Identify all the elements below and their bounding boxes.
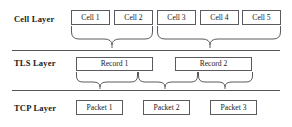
cell-box-5[interactable]: Cell 5: [242, 10, 281, 25]
cell-box-2[interactable]: Cell 2: [114, 10, 153, 25]
layer-label-cell: Cell Layer: [14, 14, 54, 24]
brace-record-1-left-to-packet-1: [76, 72, 138, 89]
brace-cells-3-5-to-record-2: [157, 26, 281, 48]
cell-box-1[interactable]: Cell 1: [71, 10, 110, 25]
tls-record-box-1[interactable]: Record 1: [76, 57, 153, 71]
layer-label-tcp: TCP Layer: [14, 103, 56, 113]
layered-protocol-diagram: Cell Layer TLS Layer TCP Layer Cell 1 Ce…: [0, 0, 292, 127]
tcp-packet-box-1[interactable]: Packet 1: [76, 100, 123, 115]
brace-record-1-right-to-packet-2: [138, 72, 198, 89]
tcp-packet-box-2[interactable]: Packet 2: [143, 100, 190, 115]
divider-cell-tls: [12, 50, 280, 51]
tls-record-box-2[interactable]: Record 2: [175, 57, 252, 71]
layer-label-tls: TLS Layer: [14, 58, 56, 68]
cell-box-4[interactable]: Cell 4: [200, 10, 239, 25]
brace-record-2-right-to-packet-3: [198, 72, 253, 89]
tcp-packet-box-3[interactable]: Packet 3: [210, 100, 257, 115]
divider-tls-tcp: [12, 90, 280, 91]
cell-box-3[interactable]: Cell 3: [157, 10, 196, 25]
brace-cells-1-2-to-record-1: [71, 26, 153, 48]
